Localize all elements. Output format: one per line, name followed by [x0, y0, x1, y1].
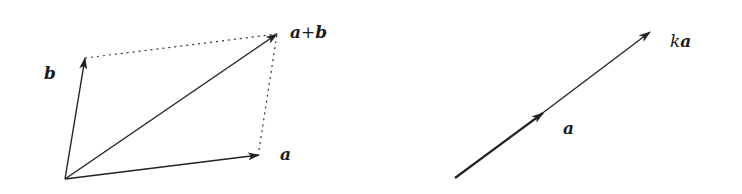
label-sum-plus: +	[301, 22, 315, 42]
label-b: b	[44, 63, 56, 83]
label-k: k	[670, 31, 680, 51]
label-a-right: a	[563, 118, 574, 138]
label-ka: ka	[670, 31, 691, 51]
vector-b-arrow	[65, 58, 85, 179]
left-panel-parallelogram: a b a+b	[44, 22, 327, 179]
vector-diagram: a b a+b a ka	[0, 0, 742, 194]
vector-ka-arrow	[540, 32, 650, 115]
label-a-plus-b: a+b	[290, 22, 327, 42]
vector-a-thick	[455, 113, 543, 178]
label-a: a	[280, 144, 291, 164]
guide-a-to-sum	[259, 34, 277, 150]
label-ka-a: a	[680, 31, 691, 51]
label-sum-a: a	[290, 22, 301, 42]
label-sum-b: b	[315, 22, 327, 42]
right-panel-scalar: a ka	[455, 31, 691, 178]
